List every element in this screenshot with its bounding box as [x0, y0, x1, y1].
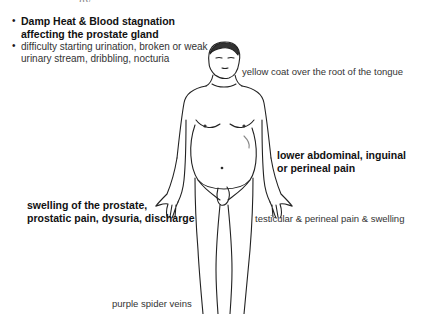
abdominal-label-line1: lower abdominal, inguinal	[277, 149, 406, 162]
testicular-label: testicular & perineal pain & swelling	[255, 213, 404, 225]
prostate-label-line2: prostatic pain, dysuria, discharge	[27, 212, 194, 225]
veins-label: purple spider veins	[112, 298, 192, 310]
tongue-label: yellow coat over the root of the tongue	[242, 66, 403, 78]
prostate-label-line1: swelling of the prostate,	[27, 199, 147, 212]
genitals	[217, 187, 229, 205]
abdominal-label-line2: or perineal pain	[277, 162, 355, 175]
